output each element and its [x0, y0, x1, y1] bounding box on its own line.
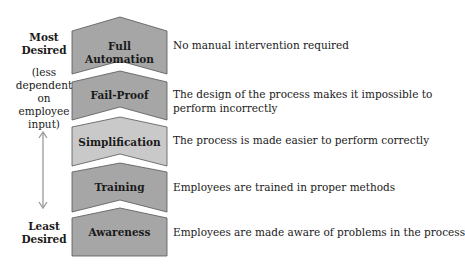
description-line: The design of the process makes it impos… — [173, 87, 432, 101]
least-desired-line-2: Desired — [15, 233, 73, 246]
description-line: No manual intervention required — [173, 38, 349, 52]
note-line-3: on employee — [12, 92, 76, 118]
level-description-simplification: The process is made easier to perform co… — [173, 133, 429, 147]
level-label-full-automation: Full Automation — [72, 40, 167, 66]
level-description-full-automation: No manual intervention required — [173, 38, 349, 52]
most-desired-line-1: Most — [15, 31, 73, 44]
description-line: The process is made easier to perform co… — [173, 133, 429, 147]
less-dependent-note: (less dependent on employee input) — [12, 66, 76, 131]
description-line: Employees are made aware of problems in … — [173, 225, 465, 239]
note-line-4: input) — [12, 118, 76, 131]
level-label-awareness: Awareness — [72, 226, 167, 239]
least-desired-label: Least Desired — [15, 220, 73, 246]
level-label-fail-proof: Fail-Proof — [72, 89, 167, 102]
level-description-training: Employees are trained in proper methods — [173, 180, 395, 194]
note-line-2: dependent — [12, 79, 76, 92]
level-description-awareness: Employees are made aware of problems in … — [173, 225, 465, 239]
level-description-fail-proof: The design of the process makes it impos… — [173, 87, 432, 115]
level-label-simplification: Simplification — [72, 136, 167, 149]
most-desired-line-2: Desired — [15, 44, 73, 57]
description-line: Employees are trained in proper methods — [173, 180, 395, 194]
note-line-1: (less — [12, 66, 76, 79]
description-line: perform incorrectly — [173, 101, 432, 115]
double-arrow-icon — [39, 132, 47, 208]
level-label-training: Training — [72, 181, 167, 194]
least-desired-line-1: Least — [15, 220, 73, 233]
most-desired-label: Most Desired — [15, 31, 73, 57]
